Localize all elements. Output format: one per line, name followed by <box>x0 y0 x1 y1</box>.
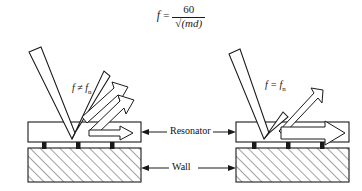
support-pad-left-1 <box>42 142 47 149</box>
resonator-label: Resonator <box>170 125 211 136</box>
support-pad-right-1 <box>252 142 257 149</box>
support-pad-left-2 <box>76 142 81 149</box>
resonator-leader-right-arrowhead <box>228 129 236 135</box>
wall-label: Wall <box>172 161 191 172</box>
support-pad-left-3 <box>110 142 115 149</box>
left-frequency-subscript: n <box>88 88 92 96</box>
resonator-leader-left-arrowhead <box>141 129 149 135</box>
support-pad-right-3 <box>320 142 325 149</box>
right-panel <box>229 49 349 182</box>
support-pad-right-2 <box>286 142 291 149</box>
right-frequency-condition-label: f = fn <box>265 79 286 93</box>
wall-block-left <box>28 148 141 182</box>
wall-leader-right-arrowhead <box>228 165 236 171</box>
resonator-figure: f=60√(md) <box>0 0 362 191</box>
right-frequency-subscript: n <box>282 85 286 93</box>
left-panel <box>28 47 141 182</box>
wall-block-right <box>236 148 349 182</box>
left-frequency-condition-label: f ≠ fn <box>72 82 92 96</box>
wall-leader-left-arrowhead <box>141 165 149 171</box>
